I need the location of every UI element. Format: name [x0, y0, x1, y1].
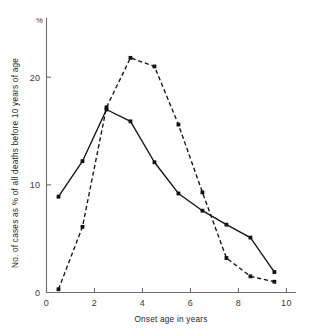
data-point-marker: [249, 274, 253, 278]
solid-series-line: [59, 110, 275, 273]
line-chart-svg: % 01020 0246810 Onset age in years No. o…: [0, 0, 310, 332]
data-point-marker: [81, 159, 85, 163]
data-point-marker: [225, 223, 229, 227]
x-tick-label: 6: [188, 298, 193, 308]
data-point-marker: [201, 209, 205, 213]
x-axis-title: Onset age in years: [134, 315, 207, 324]
data-point-marker: [129, 119, 133, 123]
data-point-marker: [201, 190, 205, 194]
data-point-marker: [273, 280, 277, 284]
y-tick-label: 10: [30, 180, 41, 190]
y-tick-label: 20: [30, 73, 41, 83]
data-point-marker: [249, 236, 253, 240]
x-tick-label: 8: [236, 298, 241, 308]
y-axis-title: No. of cases as % of all deaths before 1…: [11, 58, 20, 268]
data-point-marker: [153, 65, 157, 69]
data-point-marker: [177, 192, 181, 196]
data-point-marker: [225, 256, 229, 260]
data-point-marker: [81, 225, 85, 229]
x-tick-label: 2: [92, 298, 97, 308]
x-axis-ticks: 0246810: [44, 288, 292, 308]
dashed-series-line: [59, 58, 275, 289]
percent-unit-label: %: [36, 16, 43, 25]
data-point-marker: [129, 56, 133, 60]
chart-figure: % 01020 0246810 Onset age in years No. o…: [0, 0, 310, 332]
y-axis-ticks: 01020: [30, 73, 51, 298]
solid-series-markers: [57, 108, 277, 274]
data-point-marker: [57, 287, 61, 291]
data-point-marker: [105, 108, 109, 112]
x-tick-label: 4: [140, 298, 145, 308]
series-group: [57, 56, 277, 291]
data-point-marker: [177, 123, 181, 127]
data-point-marker: [57, 195, 61, 199]
data-point-marker: [153, 160, 157, 164]
data-point-marker: [273, 270, 277, 274]
y-tick-label: 0: [35, 288, 40, 298]
x-tick-label: 10: [281, 298, 292, 308]
dashed-series-markers: [57, 56, 277, 291]
x-tick-label: 0: [44, 298, 49, 308]
